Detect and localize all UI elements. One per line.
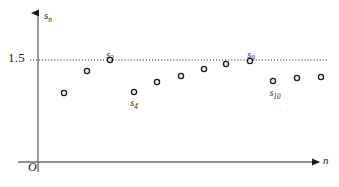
- point-label-subscript: 4: [134, 103, 138, 111]
- origin-label: O: [28, 161, 37, 173]
- data-point: [318, 74, 323, 79]
- data-point: [61, 90, 66, 95]
- data-points-group: [61, 57, 323, 95]
- x-axis-label: n: [323, 155, 329, 166]
- point-label-subscript: 10: [273, 93, 280, 101]
- data-point: [131, 89, 136, 94]
- point-label-subscript: 3: [110, 55, 114, 63]
- point-label-s3: s3: [106, 50, 114, 63]
- data-point: [270, 78, 275, 83]
- data-point: [223, 61, 228, 66]
- data-point: [84, 68, 89, 73]
- y-tick-label-1-5: 1.5: [8, 51, 25, 64]
- point-label-s10: s10: [269, 88, 280, 101]
- y-axis-label-subscript: n: [48, 16, 52, 24]
- point-label-s4: s4: [130, 98, 138, 111]
- plot-canvas: [0, 0, 339, 187]
- data-point: [201, 66, 206, 71]
- sequence-convergence-figure: sn n O 1.5 s3s4s9s10: [0, 0, 339, 187]
- data-point: [294, 75, 299, 80]
- point-label-subscript: 9: [251, 55, 255, 63]
- data-point: [178, 73, 183, 78]
- data-point: [154, 79, 159, 84]
- point-label-s9: s9: [247, 50, 255, 63]
- y-axis-label: sn: [44, 10, 52, 24]
